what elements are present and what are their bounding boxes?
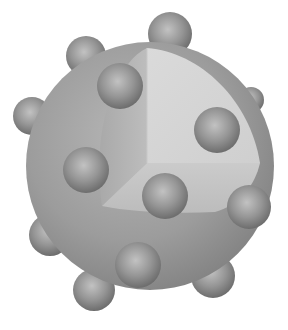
- sphere-cutaway-figure: [0, 0, 288, 330]
- sphere-illustration: [0, 0, 288, 330]
- surface-bump: [115, 242, 161, 288]
- surface-bump: [142, 173, 188, 219]
- surface-bump: [227, 185, 271, 229]
- surface-bump: [63, 147, 109, 193]
- surface-bump: [97, 63, 143, 109]
- surface-bump: [194, 107, 240, 153]
